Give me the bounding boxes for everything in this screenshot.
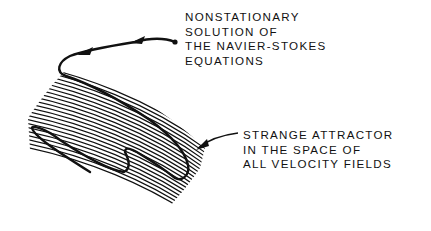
solution-label-line: THE NAVIER-STOKES [185, 39, 327, 54]
trajectory-arrowhead-icon [77, 47, 93, 55]
attractor-label-line: STRANGE ATTRACTOR [243, 128, 394, 143]
start-dot [172, 39, 177, 44]
solution-label: NONSTATIONARY SOLUTION OF THE NAVIER-STO… [185, 10, 327, 68]
trajectory-arrowhead-icon [130, 36, 145, 44]
solution-label-line: SOLUTION OF [185, 25, 327, 40]
attractor-label-line: ALL VELOCITY FIELDS [243, 157, 394, 172]
pointer-arrow [196, 133, 238, 150]
attractor-label-line: IN THE SPACE OF [243, 143, 394, 158]
solution-label-line: EQUATIONS [185, 54, 327, 69]
attractor-label: STRANGE ATTRACTOR IN THE SPACE OF ALL VE… [243, 128, 394, 172]
solution-label-line: NONSTATIONARY [185, 10, 327, 25]
